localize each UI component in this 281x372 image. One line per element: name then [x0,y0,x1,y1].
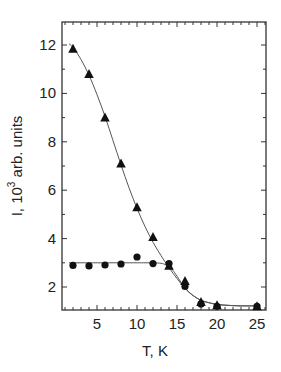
plot-border [62,22,266,310]
circle-marker [133,253,140,260]
y-axis-title: I, 103 arb. units [6,116,25,217]
y-tick-label: 2 [48,278,56,295]
y-axis-ticks: 24681012 [39,36,266,295]
plot-frame [62,22,266,310]
circle-marker [213,303,220,310]
x-axis-title: T, K [142,342,168,359]
circle-marker [149,260,156,267]
y-tick-label: 12 [39,36,56,53]
x-tick-label: 20 [209,315,226,332]
x-tick-label: 15 [169,315,186,332]
triangles-fit-line [69,44,257,306]
y-tick-label: 6 [48,181,56,198]
triangle-marker [116,159,126,168]
circle-marker [165,260,172,267]
triangle-marker [132,202,142,211]
y-tick-label: 10 [39,84,56,101]
x-axis-ticks: 510152025 [65,22,265,332]
data-markers [68,44,262,311]
circle-marker [253,303,260,310]
x-tick-label: 25 [249,315,266,332]
y-tick-label: 8 [48,133,56,150]
triangle-marker [68,44,78,53]
triangle-marker [100,113,110,122]
circle-marker [101,261,108,268]
circle-marker [85,262,92,269]
circle-marker [69,262,76,269]
x-tick-label: 10 [129,315,146,332]
circle-marker [181,283,188,290]
y-axis-title-suffix: arb. units [8,116,25,182]
circle-marker [197,300,204,307]
circles-fit-line [69,263,257,306]
chart: 510152025 24681012 T, K I, 103 arb. unit… [0,0,281,372]
fit-curves [69,44,257,306]
circle-marker [117,260,124,267]
x-tick-label: 5 [93,315,101,332]
triangle-marker [84,69,94,78]
y-tick-label: 4 [48,230,56,247]
y-axis-title-prefix: I, 10 [8,187,25,216]
